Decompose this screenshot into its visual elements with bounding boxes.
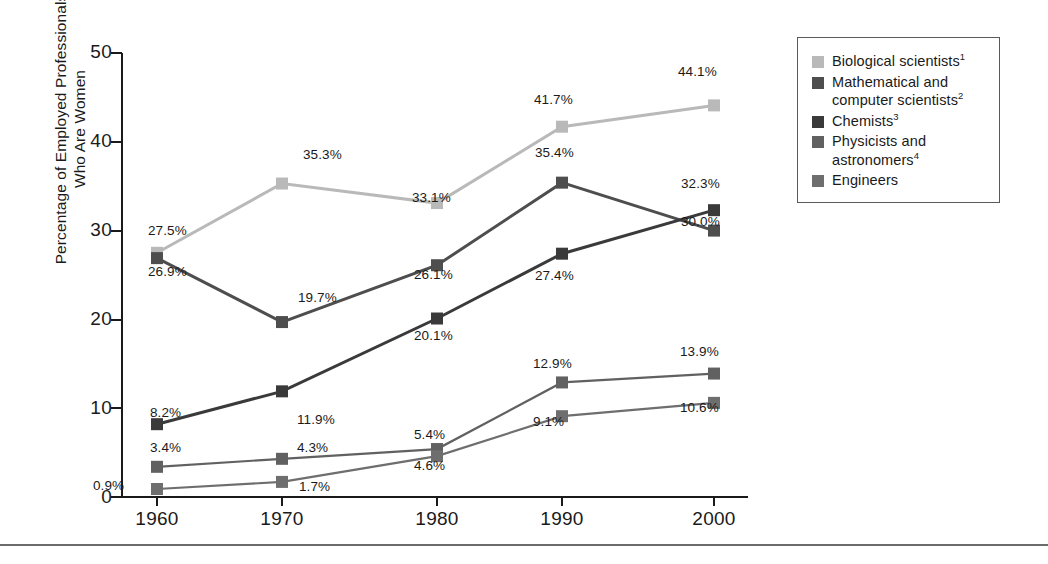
data-point-marker-chem-1990 (556, 248, 568, 260)
legend-label-chemists: Chemists3 (832, 112, 899, 131)
chart-figure: Percentage of Employed Professionals Who… (0, 0, 1048, 564)
legend-swatch-icon-biological-scientists (812, 56, 824, 68)
legend-item-engineers[interactable]: Engineers (812, 171, 989, 190)
legend-swatch-icon-chemists (812, 116, 824, 128)
data-point-marker-bio-2000 (708, 99, 720, 111)
data-point-marker-phys-1970 (276, 453, 288, 465)
legend-swatch-icon-engineers (812, 175, 824, 187)
data-point-marker-phys-1960 (151, 461, 163, 473)
point-label-phys-1970: 4.3% (297, 440, 328, 455)
legend-swatch-icon-physicists-and-astronomers (812, 136, 824, 148)
legend-item-chemists[interactable]: Chemists3 (812, 112, 989, 131)
legend-item-mathematical-and-computer-scientists[interactable]: Mathematical and computer scientists2 (812, 73, 989, 110)
point-label-math-1990: 35.4% (535, 145, 574, 160)
point-label-chem-1990: 27.4% (535, 268, 574, 283)
point-label-chem-1970: 11.9% (297, 412, 335, 427)
point-label-bio-1990: 41.7% (534, 92, 573, 107)
point-label-bio-1970: 35.3% (303, 147, 342, 162)
legend-label-mathematical-and-computer-scientists: Mathematical and computer scientists2 (832, 73, 989, 110)
legend-swatch-icon-mathematical-and-computer-scientists (812, 77, 824, 89)
series-bio (151, 99, 720, 258)
data-point-marker-chem-1970 (276, 385, 288, 397)
legend-item-physicists-and-astronomers[interactable]: Physicists and astronomers4 (812, 132, 989, 169)
point-label-eng-1970: 1.7% (299, 479, 330, 494)
data-point-marker-eng-1960 (151, 483, 163, 495)
data-point-marker-phys-2000 (708, 368, 720, 380)
legend-box: Biological scientists1 Mathematical and … (797, 37, 1000, 203)
legend-label-physicists-and-astronomers: Physicists and astronomers4 (832, 132, 989, 169)
data-point-marker-math-1990 (556, 177, 568, 189)
data-point-marker-phys-1990 (556, 376, 568, 388)
series-chem (151, 204, 720, 430)
data-point-marker-math-1960 (151, 252, 163, 264)
point-label-eng-2000: 10.6% (680, 400, 719, 415)
data-point-marker-math-1970 (276, 316, 288, 328)
point-label-phys-1980: 5.4% (414, 427, 445, 442)
point-label-math-1980: 26.1% (414, 267, 453, 282)
point-label-phys-2000: 13.9% (680, 344, 719, 359)
point-label-chem-1960: 8.2% (150, 405, 181, 420)
point-label-math-2000: 30.0% (681, 214, 720, 229)
data-point-marker-bio-1990 (556, 121, 568, 133)
point-label-bio-1980: 33.1% (412, 190, 451, 205)
point-label-phys-1990: 12.9% (533, 356, 572, 371)
point-label-bio-2000: 44.1% (678, 64, 717, 79)
legend-item-biological-scientists[interactable]: Biological scientists1 (812, 52, 989, 71)
point-label-chem-2000: 32.3% (681, 176, 720, 191)
point-label-eng-1990: 9.1% (533, 414, 564, 429)
data-point-marker-bio-1970 (276, 178, 288, 190)
point-label-math-1970: 19.7% (298, 290, 337, 305)
data-point-marker-chem-1980 (431, 313, 443, 325)
point-label-chem-1980: 20.1% (414, 328, 453, 343)
series-line-bio (157, 105, 714, 252)
point-label-bio-1960: 27.5% (148, 223, 187, 238)
data-point-marker-eng-1970 (276, 476, 288, 488)
page-divider-rule (0, 544, 1048, 546)
point-label-math-1960: 26.9% (148, 264, 187, 279)
legend-label-biological-scientists: Biological scientists1 (832, 52, 965, 71)
point-label-eng-1960: 0.9% (93, 478, 124, 493)
point-label-phys-1960: 3.4% (150, 440, 181, 455)
legend-label-engineers: Engineers (832, 171, 898, 190)
point-label-eng-1980: 4.6% (414, 458, 445, 473)
